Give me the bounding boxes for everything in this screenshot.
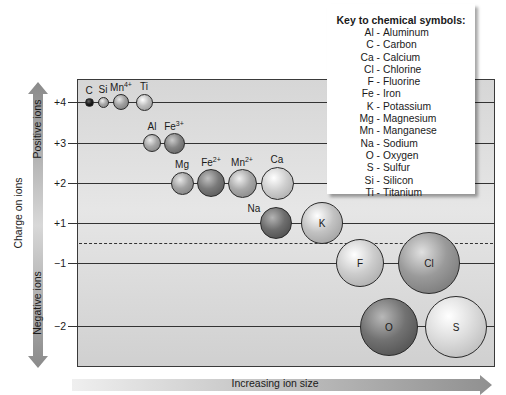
key-symbol: S - — [327, 162, 383, 174]
key-symbol: Ti - — [327, 187, 383, 199]
key-symbol: Cl - — [327, 64, 383, 76]
key-entry: Na -Sodium — [327, 138, 475, 150]
key-symbol: Mg - — [327, 113, 383, 125]
y-tick-plus1: +1 — [38, 217, 66, 229]
key-element-name: Titanium — [383, 187, 475, 199]
ion-sphere-fe-3plus — [164, 133, 185, 154]
key-entry: Al -Aluminum — [327, 27, 475, 39]
ion-label: Ti — [140, 81, 148, 92]
key-symbol: C - — [327, 39, 383, 51]
key-element-name: Silicon — [383, 175, 475, 187]
ion-label: Na — [248, 203, 261, 214]
key-element-name: Iron — [383, 88, 475, 100]
ion-label: Cl — [424, 258, 433, 269]
key-element-name: Oxygen — [383, 150, 475, 162]
ion-sphere-mn-4plus — [113, 94, 129, 110]
key-element-name: Magnesium — [383, 113, 475, 125]
key-symbol: K - — [327, 101, 383, 113]
ion-label: S — [453, 322, 460, 333]
key-symbol: Ca - — [327, 52, 383, 64]
key-element-name: Sulfur — [383, 162, 475, 174]
ion-label: F — [357, 258, 363, 269]
key-element-name: Fluorine — [383, 76, 475, 88]
y-tick-plus2: +2 — [38, 177, 66, 189]
key-entry: Mg -Magnesium — [327, 113, 475, 125]
ion-sphere-c — [85, 98, 94, 107]
key-entry: Si -Silicon — [327, 175, 475, 187]
ion-sphere-si — [98, 97, 109, 108]
ion-label: Al — [148, 121, 157, 132]
ion-sphere-mg — [171, 172, 194, 195]
key-entry: F -Fluorine — [327, 76, 475, 88]
y-tick-plus4: +4 — [38, 96, 66, 108]
key-symbol: O - — [327, 150, 383, 162]
ion-label: Mn2+ — [231, 156, 253, 168]
key-element-name: Manganese — [383, 125, 475, 137]
ion-sphere-al — [143, 134, 161, 152]
ion-sphere-fe-2plus — [197, 169, 225, 197]
ion-sphere-mn-2plus — [228, 169, 257, 198]
ion-label: O — [385, 322, 393, 333]
key-symbol: Na - — [327, 138, 383, 150]
key-element-name: Sodium — [383, 138, 475, 150]
key-entry: O -Oxygen — [327, 150, 475, 162]
x-axis-title: Increasing ion size — [200, 377, 350, 389]
key-entry: S -Sulfur — [327, 162, 475, 174]
key-entry: C -Carbon — [327, 39, 475, 51]
key-entry: Cl -Chlorine — [327, 64, 475, 76]
ion-label: Mn4+ — [110, 81, 132, 93]
y-axis-title: Charge on ions — [12, 173, 24, 253]
ion-label: Si — [99, 84, 108, 95]
y-tick-minus2: −2 — [38, 320, 66, 332]
key-element-name: Chlorine — [383, 64, 475, 76]
y-tick-minus1: −1 — [38, 257, 66, 269]
key-symbol: Mn - — [327, 125, 383, 137]
key-symbol: Fe - — [327, 88, 383, 100]
key-entry: Ti -Titanium — [327, 187, 475, 199]
key-entry: Ca -Calcium — [327, 52, 475, 64]
key-title: Key to chemical symbols: — [327, 14, 475, 26]
key-element-name: Aluminum — [383, 27, 475, 39]
key-entry: Fe -Iron — [327, 88, 475, 100]
ion-label: Ca — [271, 154, 284, 165]
ion-sphere-ca — [261, 167, 294, 200]
key-entry: Mn -Manganese — [327, 125, 475, 137]
ion-label: K — [319, 218, 326, 229]
key-symbol: Si - — [327, 175, 383, 187]
key-symbol: Al - — [327, 27, 383, 39]
key-entries: Al -AluminumC -CarbonCa -CalciumCl -Chlo… — [327, 27, 475, 199]
key-entry: K -Potassium — [327, 101, 475, 113]
key-element-name: Carbon — [383, 39, 475, 51]
ion-label: Fe3+ — [164, 120, 184, 132]
y-tick-plus3: +3 — [38, 137, 66, 149]
ion-label: C — [85, 85, 92, 96]
key-legend: Key to chemical symbols: Al -AluminumC -… — [327, 4, 475, 194]
ion-label: Fe2+ — [201, 156, 221, 168]
ion-sphere-na — [260, 207, 292, 239]
key-element-name: Potassium — [383, 101, 475, 113]
key-element-name: Calcium — [383, 52, 475, 64]
ion-sphere-ti — [136, 94, 153, 111]
ion-label: Mg — [175, 159, 189, 170]
key-symbol: F - — [327, 76, 383, 88]
